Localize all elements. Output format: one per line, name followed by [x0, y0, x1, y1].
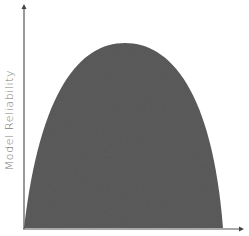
chart-canvas: [0, 0, 249, 236]
x-axis-arrow-icon: [239, 227, 244, 232]
y-axis-arrow-icon: [22, 4, 27, 9]
reliability-curve-area: [24, 43, 223, 228]
y-axis-label: Model Reliability: [3, 70, 16, 170]
